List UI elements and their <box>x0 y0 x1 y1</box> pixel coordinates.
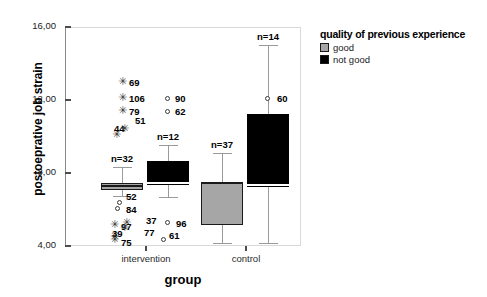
whisker-lower <box>222 225 223 243</box>
whisker-cap-lower <box>159 197 178 198</box>
outlier-label: 37 <box>146 215 157 226</box>
y-tick-mark <box>65 26 71 28</box>
outlier-extreme-marker[interactable]: ✳ <box>120 126 129 132</box>
whisker-cap-upper <box>113 167 132 168</box>
box-control-good[interactable] <box>201 182 243 225</box>
n-label: n=32 <box>92 153 152 164</box>
n-label: n=14 <box>238 31 298 42</box>
y-tick-mark <box>65 99 71 101</box>
y-tick-label: 8,00 <box>38 166 57 177</box>
outlier-label: 51 <box>135 115 146 126</box>
legend-item-not-good[interactable]: not good <box>320 54 485 65</box>
boxplot-chart: postoeprative job strain 16,0012,008,004… <box>0 0 487 297</box>
outlier-label: 90 <box>175 93 186 104</box>
outlier-label: 75 <box>121 237 132 248</box>
whisker-cap-lower <box>213 243 232 244</box>
y-tick-mark <box>65 245 71 247</box>
whisker-cap-upper <box>259 45 278 46</box>
median-line <box>101 185 143 187</box>
outlier-label: 77 <box>144 227 155 238</box>
median-line <box>147 182 189 184</box>
y-tick-label: 16,00 <box>32 20 56 31</box>
outlier-mild-marker[interactable] <box>165 109 170 114</box>
y-tick-mark <box>65 172 71 174</box>
outlier-mild-marker[interactable] <box>115 206 120 211</box>
legend-swatch-icon <box>320 55 329 64</box>
outlier-mild-marker[interactable] <box>161 237 166 242</box>
outlier-label: 69 <box>129 77 140 88</box>
whisker-cap-upper <box>213 153 232 154</box>
legend-swatch-icon <box>320 43 329 52</box>
outlier-label: 52 <box>126 191 137 202</box>
whisker-lower <box>168 185 169 197</box>
outlier-extreme-marker[interactable]: ✳ <box>110 237 119 243</box>
outlier-label: 96 <box>176 218 187 229</box>
x-tick-mark <box>145 246 147 251</box>
y-axis-line <box>65 26 66 246</box>
outlier-label: 106 <box>129 93 145 104</box>
x-axis-title: group <box>65 272 301 287</box>
legend-label: good <box>333 42 354 53</box>
whisker-upper <box>222 153 223 182</box>
legend-label: not good <box>333 54 370 65</box>
whisker-upper <box>168 145 169 161</box>
whisker-upper <box>122 167 123 183</box>
legend-item-good[interactable]: good <box>320 42 485 53</box>
whisker-upper <box>268 45 269 113</box>
outlier-label: 84 <box>126 204 137 215</box>
box-control-not-good[interactable] <box>247 114 289 187</box>
outlier-extreme-marker[interactable]: ✳ <box>118 108 127 114</box>
outlier-label: 62 <box>175 106 186 117</box>
median-line <box>201 182 243 184</box>
y-tick-label: 4,00 <box>38 239 57 250</box>
y-tick-label: 12,00 <box>32 93 56 104</box>
whisker-cap-lower <box>259 243 278 244</box>
y-axis-ticks: 16,0012,008,004,00 <box>0 0 65 297</box>
outlier-label: 61 <box>169 230 180 241</box>
legend-entries: goodnot good <box>320 42 485 65</box>
n-label: n=37 <box>192 139 252 150</box>
legend: quality of previous experience goodnot g… <box>320 28 485 65</box>
median-line <box>247 184 289 186</box>
x-tick-label: control <box>185 253 307 264</box>
x-tick-mark <box>245 246 247 251</box>
whisker-cap-upper <box>159 145 178 146</box>
outlier-extreme-marker[interactable]: ✳ <box>118 79 127 85</box>
outlier-extreme-marker[interactable]: ✳ <box>118 95 127 101</box>
whisker-lower <box>268 187 269 244</box>
legend-title: quality of previous experience <box>320 28 485 40</box>
outlier-label: 60 <box>277 93 288 104</box>
n-label: n=12 <box>138 131 198 142</box>
